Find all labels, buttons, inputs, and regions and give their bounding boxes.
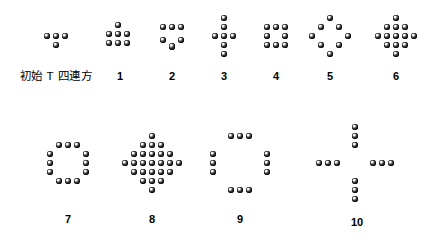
dot [210, 151, 217, 158]
dot [149, 160, 156, 167]
dot [160, 24, 167, 31]
dot [402, 33, 409, 40]
dot [106, 40, 113, 47]
dot [83, 160, 90, 167]
tetromino-growth-figure: 初始 T 四連方12345678910 [0, 0, 443, 243]
dot [264, 151, 271, 158]
dot [282, 33, 289, 40]
dot [115, 31, 122, 38]
dot [210, 160, 217, 167]
dot [140, 142, 147, 149]
dot [212, 33, 219, 40]
dot [393, 24, 400, 31]
dot [149, 133, 156, 140]
dot [83, 169, 90, 176]
dot [384, 42, 391, 49]
dot [140, 160, 147, 167]
dot [327, 15, 334, 22]
dot [237, 133, 244, 140]
dot [352, 178, 359, 185]
dot [149, 169, 156, 176]
dot [352, 142, 359, 149]
dot [158, 178, 165, 185]
panel-caption-5: 5 [327, 70, 333, 82]
dot [221, 24, 228, 31]
dot [44, 33, 51, 40]
dot [149, 178, 156, 185]
dot [53, 42, 60, 49]
dot [56, 142, 63, 149]
dot [56, 178, 63, 185]
dot [83, 151, 90, 158]
dot [149, 151, 156, 158]
dot [221, 33, 228, 40]
dot [167, 160, 174, 167]
dot [316, 160, 323, 167]
dot [210, 169, 217, 176]
dot [65, 142, 72, 149]
dot [352, 196, 359, 203]
dot [388, 160, 395, 167]
dot [62, 33, 69, 40]
panel-caption-8: 8 [149, 213, 155, 225]
dot [246, 187, 253, 194]
panel-caption-1: 1 [117, 70, 123, 82]
dot [246, 133, 253, 140]
dot [124, 40, 131, 47]
panel-caption-9: 9 [237, 213, 243, 225]
dot [122, 160, 129, 167]
dot [158, 160, 165, 167]
dot [352, 124, 359, 131]
panel-caption-0: 初始 T 四連方 [20, 70, 92, 82]
dot [160, 37, 167, 44]
dot [264, 169, 271, 176]
dot [352, 187, 359, 194]
dot [158, 151, 165, 158]
dot [309, 33, 316, 40]
dot [273, 24, 280, 31]
dot [53, 33, 60, 40]
dot [74, 178, 81, 185]
dot [411, 33, 418, 40]
dot [228, 187, 235, 194]
dot [47, 169, 54, 176]
dot [158, 169, 165, 176]
dot [221, 15, 228, 22]
dot [178, 24, 185, 31]
dot [140, 169, 147, 176]
dot [325, 160, 332, 167]
dot [336, 42, 343, 49]
dot [228, 133, 235, 140]
panel-caption-10: 10 [351, 216, 363, 228]
dot [273, 42, 280, 49]
dot [264, 42, 271, 49]
dot [282, 24, 289, 31]
dot [140, 151, 147, 158]
dot [47, 160, 54, 167]
dot [131, 160, 138, 167]
dot [375, 33, 382, 40]
dot [221, 51, 228, 58]
dot [393, 42, 400, 49]
dot [264, 33, 271, 40]
dot [336, 24, 343, 31]
dot [318, 42, 325, 49]
panel-caption-4: 4 [273, 70, 279, 82]
dot [402, 24, 409, 31]
dot [158, 142, 165, 149]
dot [131, 169, 138, 176]
dot [384, 24, 391, 31]
dot [47, 151, 54, 158]
dot [140, 178, 147, 185]
dot [345, 33, 352, 40]
dot [221, 42, 228, 49]
dot [282, 42, 289, 49]
dot [178, 37, 185, 44]
dot [318, 24, 325, 31]
dot [393, 15, 400, 22]
dot [65, 178, 72, 185]
dot [115, 22, 122, 29]
dot [402, 42, 409, 49]
dot [264, 160, 271, 167]
dot [384, 33, 391, 40]
